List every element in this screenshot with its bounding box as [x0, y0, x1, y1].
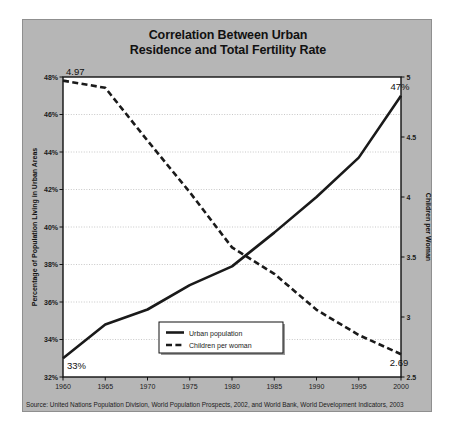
plot-area-wrapper: 32%34%36%38%40%42%44%46%48%2.533.544.551…	[23, 20, 433, 413]
annotation-fertility-start: 4.97	[66, 66, 85, 77]
y-tick-label-left: 44%	[44, 149, 59, 156]
y-tick-label-right: 4.5	[407, 134, 417, 141]
y-tick-label-right: 5	[407, 74, 411, 81]
annotation-fertility-end: 2.69	[390, 357, 409, 368]
y-tick-label-left: 32%	[44, 374, 59, 381]
y-tick-label-right: 3	[407, 314, 411, 321]
x-tick-label: 1995	[351, 383, 367, 390]
y-axis-title-left: Percentage of Population Living in Urban…	[31, 148, 39, 307]
x-tick-label: 1960	[55, 383, 71, 390]
y-tick-label-right: 2.5	[407, 374, 417, 381]
chart-frame: Correlation Between Urban Residence and …	[22, 19, 432, 412]
annotation-urban-start: 33%	[67, 360, 87, 371]
x-tick-label: 1970	[140, 383, 156, 390]
legend: Urban populationChildren per woman	[159, 322, 285, 355]
y-tick-label-left: 48%	[44, 74, 59, 81]
y-axis-right: 2.533.544.55	[401, 74, 416, 381]
y-tick-label-right: 3.5	[407, 254, 417, 261]
x-tick-label: 2000	[393, 383, 409, 390]
annotation-urban-end: 47%	[390, 81, 410, 92]
line-chart: 32%34%36%38%40%42%44%46%48%2.533.544.551…	[23, 20, 433, 413]
y-tick-label-left: 34%	[44, 336, 59, 343]
y-tick-label-right: 4	[407, 194, 411, 201]
source-note: Source: United Nations Population Divisi…	[26, 401, 430, 408]
x-tick-label: 1985	[266, 383, 282, 390]
y-tick-label-left: 40%	[44, 224, 59, 231]
y-tick-label-left: 42%	[44, 186, 59, 193]
x-tick-label: 1990	[309, 383, 325, 390]
y-tick-label-left: 36%	[44, 299, 59, 306]
legend-label: Children per woman	[189, 342, 252, 350]
y-tick-label-left: 38%	[44, 261, 59, 268]
y-tick-label-left: 46%	[44, 111, 59, 118]
y-axis-title-right: Children per Woman	[424, 193, 432, 261]
y-axis-left: 32%34%36%38%40%42%44%46%48%	[44, 74, 63, 381]
legend-label: Urban population	[189, 330, 242, 338]
x-tick-label: 1980	[224, 383, 240, 390]
x-axis: 196019651970197519801985199019952000	[55, 377, 409, 390]
x-tick-label: 1975	[182, 383, 198, 390]
x-tick-label: 1965	[97, 383, 113, 390]
